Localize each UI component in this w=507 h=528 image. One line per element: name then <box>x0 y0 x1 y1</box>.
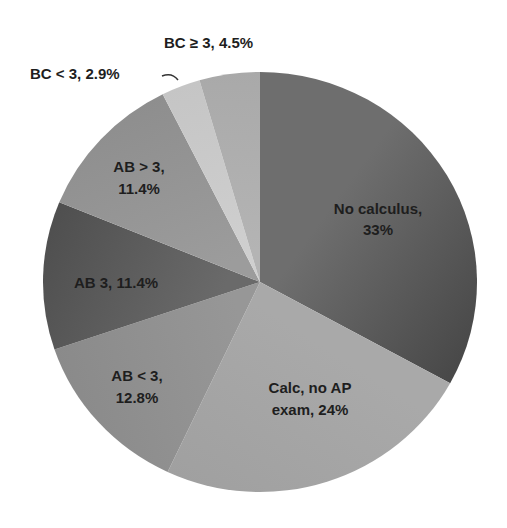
label-bc-lt-3: BC < 3, 2.9% <box>30 65 120 82</box>
pie-chart: No calculus,33% Calc, no APexam, 24% AB … <box>0 0 507 528</box>
label-ab-3: AB 3, 11.4% <box>74 274 158 291</box>
label-bc-ge-3: BC ≥ 3, 4.5% <box>164 34 253 51</box>
leader-line-bc-lt-3 <box>162 75 178 80</box>
